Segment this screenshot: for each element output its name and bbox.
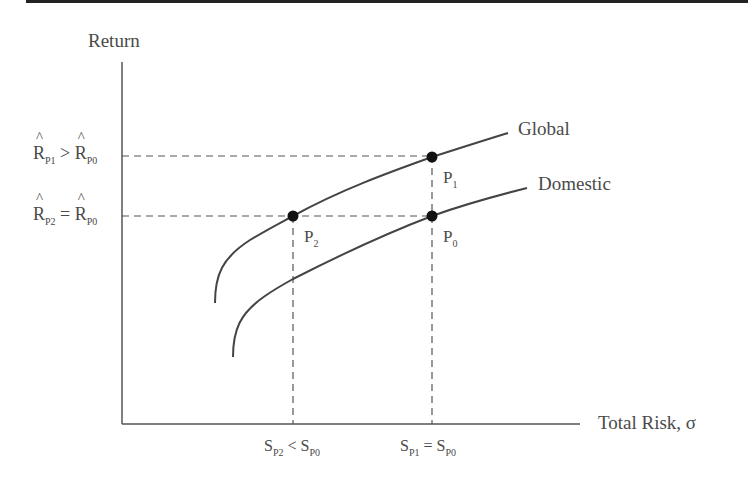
point-p1-marker xyxy=(427,152,438,163)
sp2-symbol: S xyxy=(264,437,273,454)
domestic-curve-label: Domestic xyxy=(538,173,611,195)
relation-lt: < xyxy=(287,437,296,454)
sp0-sub: P0 xyxy=(309,447,320,458)
y-tick-label-rp1-gt-rp0: RP1 > RP0 xyxy=(33,143,97,164)
x-axis-title: Total Risk, σ xyxy=(598,412,696,434)
rp0-sub-2: P0 xyxy=(87,216,98,227)
sp0-sub-2: P0 xyxy=(445,447,456,458)
relation-gt: > xyxy=(60,143,70,163)
rp1-symbol: R xyxy=(33,143,45,164)
rp2-sub: P2 xyxy=(45,216,56,227)
y-tick-label-rp2-eq-rp0: RP2 = RP0 xyxy=(33,204,97,225)
relation-eq: = xyxy=(60,204,70,224)
point-p1-label: P1 xyxy=(443,168,457,188)
sp1-sub: P1 xyxy=(409,447,420,458)
point-p0-sub: 0 xyxy=(452,238,457,249)
point-p2-sub: 2 xyxy=(313,238,318,249)
rp0-symbol-2: R xyxy=(75,204,87,225)
global-curve xyxy=(215,133,508,303)
global-curve-label: Global xyxy=(518,118,570,140)
point-p0-label: P0 xyxy=(443,227,457,247)
rp0-sub: P0 xyxy=(87,155,98,166)
rp1-sub: P1 xyxy=(45,155,56,166)
relation-eq-x: = xyxy=(423,437,432,454)
sp1-symbol: S xyxy=(400,437,409,454)
point-p0-marker xyxy=(427,211,438,222)
rp2-symbol: R xyxy=(33,204,45,225)
x-tick-label-sp2-lt-sp0: SP2 < SP0 xyxy=(264,437,320,455)
point-p2-marker xyxy=(288,211,299,222)
domestic-curve xyxy=(233,188,527,357)
rp0-symbol: R xyxy=(75,143,87,164)
point-p2-label: P2 xyxy=(304,227,318,247)
point-p1-sub: 1 xyxy=(452,179,457,190)
sp2-sub: P2 xyxy=(273,447,284,458)
y-axis-title: Return xyxy=(88,30,140,52)
x-tick-label-sp1-eq-sp0: SP1 = SP0 xyxy=(400,437,456,455)
